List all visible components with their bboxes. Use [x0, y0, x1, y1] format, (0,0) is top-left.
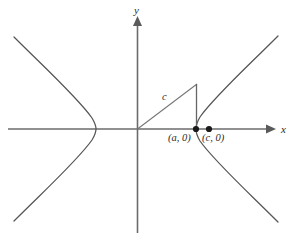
vertex-point-label: (a, 0): [168, 133, 191, 144]
y-axis-arrowhead: [133, 16, 142, 26]
hypotenuse-label-c: c: [162, 92, 167, 103]
vertex-point-dot: [193, 126, 199, 132]
figure-canvas: [0, 0, 298, 242]
triangle-hypotenuse: [138, 84, 198, 129]
x-axis-arrowhead: [266, 124, 276, 133]
focus-point-label: (c, 0): [202, 133, 224, 144]
y-axis-label: y: [134, 5, 139, 16]
x-axis-label: x: [281, 124, 286, 135]
hyperbola-figure: x y c (a, 0) (c, 0): [0, 0, 298, 242]
